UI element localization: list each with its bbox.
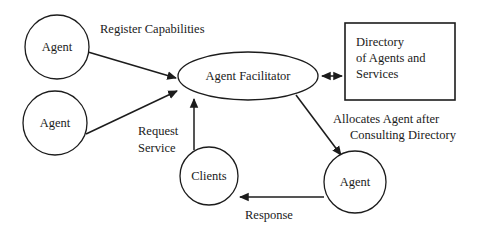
edge-label-request-service-line-1: Request (138, 124, 179, 138)
edge-register-capabilities (88, 52, 176, 78)
agent-mid-left-label: Agent (40, 116, 71, 130)
directory-label-line-2: of Agents and (356, 51, 426, 65)
node-agent-facilitator[interactable]: Agent Facilitator (178, 52, 318, 100)
edge-label-response: Response (245, 208, 293, 222)
node-directory[interactable]: Directory of Agents and Services (345, 23, 455, 100)
edge-label-register-capabilities: Register Capabilities (100, 22, 205, 36)
node-agent-bottom-right[interactable]: Agent (324, 151, 386, 213)
diagram-canvas: Agent Agent Agent Facilitator Directory … (0, 0, 480, 234)
edge-line-register-capabilities (88, 52, 176, 78)
edge-label-allocates-line-2: Consulting Directory (350, 128, 457, 142)
diagram-root: Agent Agent Agent Facilitator Directory … (0, 0, 480, 234)
node-clients[interactable]: Clients (180, 147, 238, 205)
edge-label-request-service-line-2: Service (138, 141, 176, 155)
directory-label-line-3: Services (356, 67, 398, 81)
agent-bottom-right-label: Agent (340, 175, 371, 189)
directory-label-line-1: Directory (356, 35, 405, 49)
node-agent-mid-left[interactable]: Agent (23, 91, 87, 155)
edge-label-allocates-line-1: Allocates Agent after (333, 112, 440, 126)
agent-facilitator-label: Agent Facilitator (205, 69, 291, 83)
clients-label: Clients (191, 169, 227, 183)
node-agent-top-left[interactable]: Agent (25, 15, 89, 79)
agent-top-left-label: Agent (42, 40, 73, 54)
